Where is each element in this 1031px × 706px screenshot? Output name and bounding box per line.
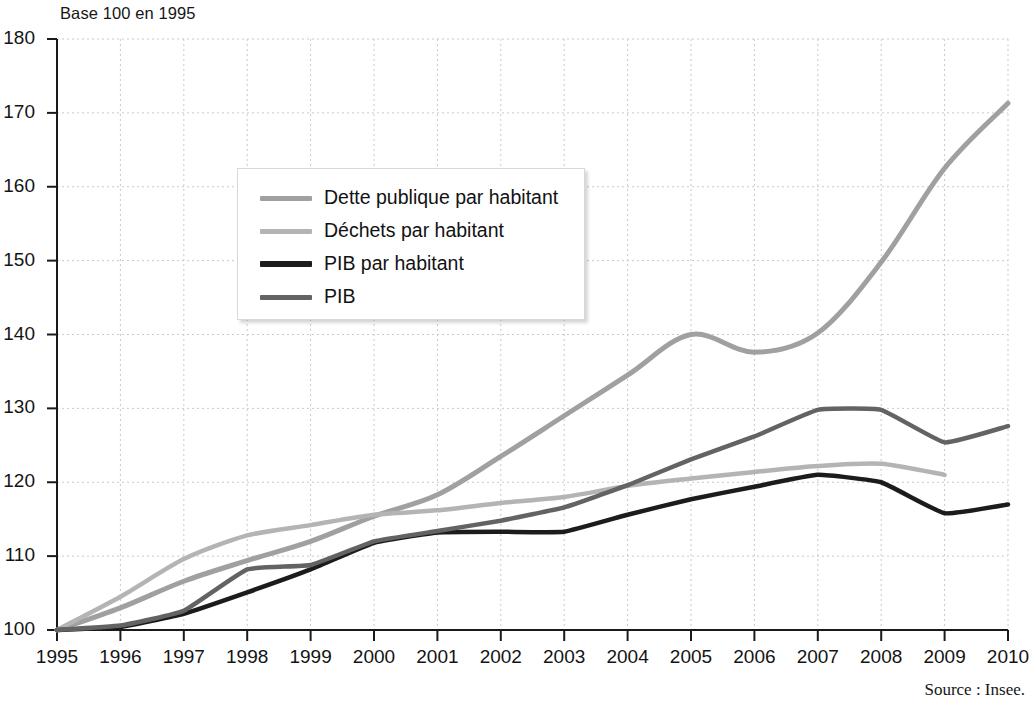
x-tick-label: 2004: [593, 646, 663, 668]
axis-ticks: [47, 39, 1008, 641]
legend-item[interactable]: PIB: [260, 282, 355, 312]
x-tick-label: 1999: [276, 646, 346, 668]
chart-canvas: [0, 0, 1031, 706]
x-tick-label: 1995: [22, 646, 92, 668]
x-tick-label: 2001: [402, 646, 472, 668]
x-tick-label: 2005: [656, 646, 726, 668]
source-note: Source : Insee.: [924, 680, 1025, 700]
y-axis-title: Base 100 en 1995: [60, 4, 196, 23]
x-tick-label: 1998: [212, 646, 282, 668]
x-tick-label: 2008: [846, 646, 916, 668]
y-tick-label: 170: [0, 101, 35, 123]
legend-item-label: PIB par habitant: [324, 254, 464, 274]
legend-item-label: Déchets par habitant: [324, 221, 504, 241]
x-tick-label: 2003: [529, 646, 599, 668]
y-tick-label: 130: [0, 396, 35, 418]
x-tick-label: 1997: [149, 646, 219, 668]
legend-swatch-icon: [260, 229, 312, 234]
y-tick-label: 100: [0, 618, 35, 640]
x-tick-label: 2006: [719, 646, 789, 668]
y-tick-label: 140: [0, 323, 35, 345]
legend-item-label: Dette publique par habitant: [324, 188, 558, 208]
legend-swatch-icon: [260, 196, 312, 201]
y-tick-label: 110: [0, 544, 35, 566]
legend-item[interactable]: Déchets par habitant: [260, 216, 504, 246]
x-tick-label: 2002: [466, 646, 536, 668]
x-tick-label: 2009: [910, 646, 980, 668]
legend-swatch-icon: [260, 295, 312, 300]
chart-legend: Dette publique par habitantDéchets par h…: [237, 168, 585, 320]
x-tick-label: 1996: [85, 646, 155, 668]
chart-figure: Base 100 en 1995 10011012013014015016017…: [0, 0, 1031, 706]
x-tick-label: 2010: [973, 646, 1031, 668]
y-tick-label: 150: [0, 249, 35, 271]
y-tick-label: 120: [0, 470, 35, 492]
legend-item-label: PIB: [324, 287, 355, 307]
legend-item[interactable]: Dette publique par habitant: [260, 183, 558, 213]
y-tick-label: 160: [0, 175, 35, 197]
x-tick-label: 2000: [339, 646, 409, 668]
legend-item[interactable]: PIB par habitant: [260, 249, 464, 279]
gridlines: [57, 39, 1008, 630]
legend-swatch-icon: [260, 261, 312, 267]
series-line: [57, 409, 1008, 630]
y-tick-label: 180: [0, 27, 35, 49]
x-tick-label: 2007: [783, 646, 853, 668]
